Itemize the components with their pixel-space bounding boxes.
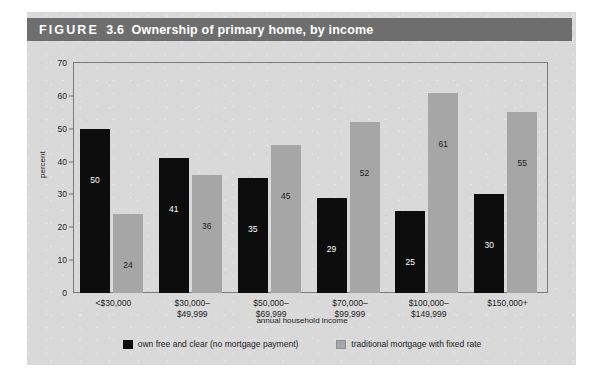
bar-value-label: 50 [80,175,110,185]
bar-value-label: 55 [507,158,537,168]
bar-value-label: 29 [317,244,347,254]
y-axis-tick-label: 0 [62,288,74,298]
bar-value-label: 52 [350,168,380,178]
plot-area: 010203040506070502441363545295225613055 [74,63,547,293]
chart-legend: own free and clear (no mortgage payment)… [0,339,604,349]
bar-group: 3055 [468,63,547,293]
bar: 55 [507,112,537,293]
bar: 61 [428,93,458,293]
bar-group: 4136 [153,63,232,293]
bar: 30 [474,194,504,293]
legend-item: own free and clear (no mortgage payment) [123,339,299,349]
figure-title-text: Ownership of primary home, by income [132,23,374,37]
bar: 29 [317,198,347,293]
y-axis-tick-label: 70 [58,58,74,68]
y-axis-title: percent [38,151,47,178]
bar-value-label: 45 [271,191,301,201]
bar: 50 [80,129,110,293]
figure-root: FIGURE 3.6 Ownership of primary home, by… [0,0,604,383]
bar: 45 [271,145,301,293]
bar-value-label: 35 [238,224,268,234]
legend-label: traditional mortgage with fixed rate [351,339,481,349]
bar-group: 2561 [389,63,468,293]
x-axis-tick-label: <$30,000 [74,298,153,309]
bar-value-label: 61 [428,139,458,149]
figure-title-spacer-2 [124,23,131,37]
x-axis-tick-label: $150,000+ [468,298,547,309]
bar: 25 [395,211,425,293]
legend-item: traditional mortgage with fixed rate [336,339,481,349]
figure-number: 3.6 [106,23,124,37]
x-axis-title: annual household income [0,316,604,325]
bar-group: 5024 [74,63,153,293]
bar-group: 2952 [311,63,390,293]
figure-title: FIGURE 3.6 Ownership of primary home, by… [27,23,374,37]
bar-value-label: 24 [113,260,143,270]
bar: 36 [192,175,222,293]
figure-label: FIGURE [39,23,99,37]
bar: 24 [113,214,143,293]
bar-value-label: 41 [159,204,189,214]
bar-value-label: 30 [474,240,504,250]
legend-label: own free and clear (no mortgage payment) [138,339,299,349]
legend-swatch-icon [336,340,346,349]
bar-value-label: 36 [192,221,222,231]
bar-group: 3545 [232,63,311,293]
legend-swatch-icon [123,340,133,349]
figure-title-bar: FIGURE 3.6 Ownership of primary home, by… [27,18,572,41]
bar-value-label: 25 [395,257,425,267]
bar: 41 [159,158,189,293]
bar: 35 [238,178,268,293]
bar: 52 [350,122,380,293]
